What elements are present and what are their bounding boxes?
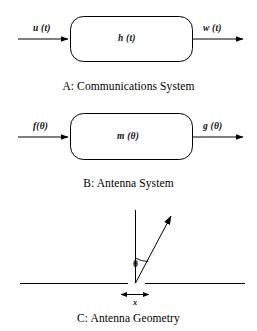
label-a-output: w (t) xyxy=(203,24,222,34)
ray-arrow xyxy=(136,216,172,283)
figure-canvas: u (t) h (t) w (t) A: Communications Syst… xyxy=(0,0,257,331)
label-a-block: h (t) xyxy=(118,34,136,44)
label-offset-x: x xyxy=(133,298,137,307)
caption-panel-b: B: Antenna System xyxy=(0,177,257,189)
label-b-input: f(θ) xyxy=(33,122,48,132)
caption-panel-a: A: Communications System xyxy=(0,80,257,92)
label-angle-theta: θ xyxy=(133,260,138,270)
diagram-vector-layer xyxy=(0,0,257,331)
label-b-block: m (θ) xyxy=(117,132,139,142)
caption-panel-c: C: Antenna Geometry xyxy=(0,312,257,324)
panel-c-graphics xyxy=(20,210,245,295)
label-a-input: u (t) xyxy=(33,24,51,34)
label-b-output: g (θ) xyxy=(203,122,222,132)
